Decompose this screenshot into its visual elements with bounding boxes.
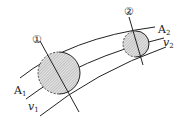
section-1-marker: ① <box>32 33 42 46</box>
velocity-2-label: v2 <box>163 36 174 50</box>
cross-section-2 <box>123 17 149 65</box>
velocity-1-label: v1 <box>28 100 39 114</box>
stream-tube-diagram: ① ② A1 v1 A2 v2 <box>0 0 184 125</box>
area-2-label: A2 <box>157 23 170 37</box>
area-1-label: A1 <box>13 84 26 98</box>
section-2-marker: ② <box>124 5 134 18</box>
